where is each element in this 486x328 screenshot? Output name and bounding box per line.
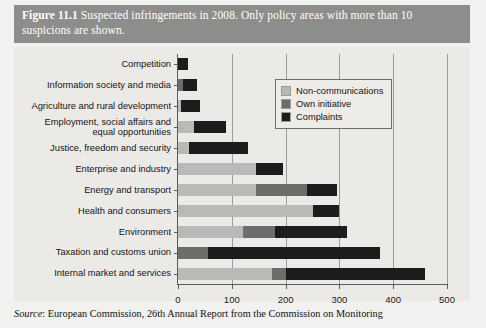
legend-entry-non-communications: Non-communications — [281, 85, 383, 97]
x-tick-300 — [339, 284, 340, 289]
bar-segment — [178, 247, 208, 259]
y-axis-label: Internal market and services — [11, 268, 171, 279]
bar-segment — [208, 247, 380, 259]
chart-row: Health and consumers — [178, 201, 447, 221]
bar-segment — [178, 142, 189, 154]
x-tick-label-100: 100 — [224, 294, 240, 305]
bar-segment — [183, 79, 196, 91]
chart-row: Energy and transport — [178, 180, 447, 200]
bar-segment — [243, 226, 275, 238]
bar-segment — [272, 268, 285, 280]
chart-legend: Non-communications Own initiative Compla… — [275, 79, 392, 129]
x-tick-label-200: 200 — [278, 294, 294, 305]
bar-segment — [194, 121, 226, 133]
chart-row: Taxation and customs union — [178, 243, 447, 263]
source-prefix: Source — [14, 308, 42, 319]
stacked-bar — [178, 184, 337, 196]
x-tick-0 — [178, 284, 179, 289]
bar-segment — [189, 142, 248, 154]
y-axis-label: Environment — [11, 227, 171, 238]
figure-source: Source: European Commission, 26th Annual… — [14, 308, 484, 319]
figure-caption-text: Figure 11.1 Suspected infringements in 2… — [22, 8, 462, 37]
bar-segment — [178, 205, 313, 217]
bar-segment — [313, 205, 340, 217]
bar-segment — [178, 58, 188, 70]
chart-row: Environment — [178, 222, 447, 242]
stacked-bar — [178, 79, 197, 91]
stacked-bar — [178, 100, 200, 112]
legend-label-complaints: Complaints — [296, 112, 343, 122]
x-tick-label-300: 300 — [331, 294, 347, 305]
legend-swatch-icon-non-communications — [281, 86, 291, 96]
chart-row: Enterprise and industry — [178, 159, 447, 179]
gridline-500 — [447, 54, 448, 284]
y-axis-label: Energy and transport — [11, 185, 171, 196]
stacked-bar — [178, 163, 283, 175]
bar-segment — [178, 268, 272, 280]
stacked-bar — [178, 247, 380, 259]
legend-label-non-communications: Non-communications — [296, 86, 383, 96]
bar-segment — [178, 184, 256, 196]
x-tick-label-500: 500 — [439, 294, 455, 305]
figure-caption: Suspected infringements in 2008. Only po… — [22, 9, 412, 36]
bar-segment — [286, 268, 426, 280]
legend-swatch-icon-own-initiative — [281, 99, 291, 109]
bar-segment — [307, 184, 337, 196]
bar-segment — [275, 226, 348, 238]
legend-entry-complaints: Complaints — [281, 111, 383, 123]
legend-swatch-icon-complaints — [281, 112, 291, 122]
figure-container: Figure 11.1 Suspected infringements in 2… — [0, 0, 486, 328]
bar-segment — [178, 121, 194, 133]
stacked-bar — [178, 205, 339, 217]
y-axis-label: Justice, freedom and security — [11, 143, 171, 154]
bar-segment — [178, 163, 256, 175]
y-axis-label: Agriculture and rural development — [11, 101, 171, 112]
stacked-bar — [178, 226, 347, 238]
x-tick-label-0: 0 — [175, 294, 180, 305]
y-axis-label: Enterprise and industry — [11, 164, 171, 175]
figure-caption-bar: Figure 11.1 Suspected infringements in 2… — [14, 5, 470, 43]
y-axis-label: Information society and media — [11, 80, 171, 91]
chart-row: Justice, freedom and security — [178, 138, 447, 158]
bar-segment — [256, 163, 283, 175]
stacked-bar — [178, 142, 248, 154]
x-tick-100 — [232, 284, 233, 289]
y-axis-label: Competition — [11, 59, 171, 70]
x-tick-200 — [286, 284, 287, 289]
x-tick-label-400: 400 — [385, 294, 401, 305]
legend-label-own-initiative: Own initiative — [296, 99, 351, 109]
chart-row: Internal market and services — [178, 264, 447, 284]
stacked-bar — [178, 58, 188, 70]
stacked-bar — [178, 268, 425, 280]
bar-segment — [181, 100, 200, 112]
source-text: : European Commission, 26th Annual Repor… — [42, 308, 383, 319]
x-tick-400 — [393, 284, 394, 289]
bar-segment — [178, 226, 243, 238]
x-axis-line — [177, 284, 447, 285]
y-axis-label: Employment, social affairs and equal opp… — [11, 117, 171, 138]
chart-row: Competition — [178, 54, 447, 74]
stacked-bar — [178, 121, 226, 133]
x-tick-500 — [447, 284, 448, 289]
chart-area: 0100200300400500CompetitionInformation s… — [14, 47, 470, 301]
figure-number: Figure 11.1 — [22, 9, 78, 21]
legend-entry-own-initiative: Own initiative — [281, 98, 383, 110]
bar-segment — [256, 184, 307, 196]
y-axis-label: Taxation and customs union — [11, 247, 171, 258]
y-axis-label: Health and consumers — [11, 206, 171, 217]
